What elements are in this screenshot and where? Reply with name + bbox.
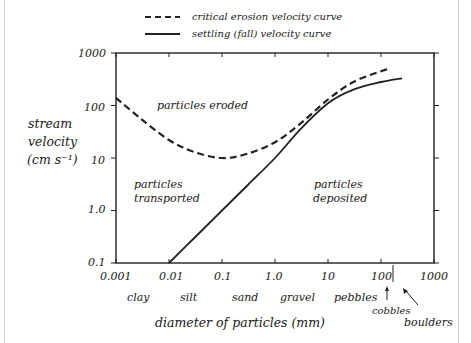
- y-axis-title-line2: velocity: [28, 135, 77, 148]
- y-axis-title-line3: (cm s⁻¹): [27, 153, 78, 166]
- x-tick-100: 100: [371, 270, 392, 283]
- x-tick-10: 10: [321, 270, 335, 283]
- x-tick-0-1: 0.1: [214, 270, 232, 283]
- region-transported-line2: transported: [134, 192, 200, 205]
- class-gravel: gravel: [280, 291, 315, 304]
- region-transported-line1: particles: [134, 178, 183, 191]
- x-axis-title: diameter of particles (mm): [155, 316, 325, 329]
- x-tick-1: 1.0: [265, 270, 283, 283]
- region-deposited-line2: deposited: [313, 192, 367, 205]
- y-axis-title-line1: stream: [28, 117, 72, 130]
- cobbles-arrowhead: [385, 286, 389, 291]
- erosion-curve: [116, 69, 390, 158]
- boulders-arrow: [405, 290, 418, 305]
- y-tick-1000: 1000: [78, 47, 106, 60]
- region-eroded-label: particles eroded: [157, 99, 248, 112]
- x-tick-0-01: 0.01: [159, 270, 184, 283]
- y-tick-1: 1.0: [88, 203, 106, 216]
- y-tick-0-1: 0.1: [88, 256, 106, 269]
- class-pebbles: pebbles: [334, 291, 377, 304]
- y-tick-100: 100: [84, 101, 105, 114]
- legend-settling-label: settling (fall) velocity curve: [192, 27, 331, 40]
- class-boulders: boulders: [404, 316, 453, 329]
- x-tick-1000: 1000: [420, 270, 448, 283]
- class-sand: sand: [232, 291, 258, 304]
- region-deposited-line1: particles: [314, 178, 363, 191]
- y-tick-10: 10: [91, 154, 105, 167]
- x-tick-0-001: 0.001: [100, 270, 132, 283]
- legend-erosion-label: critical erosion velocity curve: [192, 10, 342, 23]
- class-silt: silt: [180, 291, 197, 304]
- class-clay: clay: [127, 291, 149, 304]
